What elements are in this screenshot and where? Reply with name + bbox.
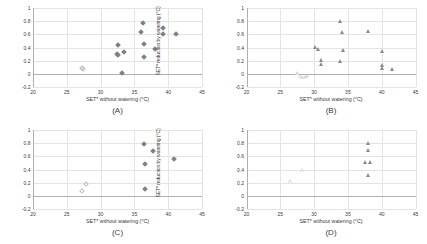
y-tick-label: 0.8	[237, 19, 244, 24]
data-point	[142, 186, 148, 192]
data-point	[316, 47, 320, 51]
y-tick-label: 0	[28, 71, 31, 76]
panel-b-plot-area: 202530354045-0.200.20.40.60.81	[247, 8, 416, 87]
x-tick-label: 45	[199, 212, 205, 217]
x-tick-label: 30	[98, 90, 104, 95]
y-tick-label: 0.4	[24, 167, 31, 172]
panel-d-x-axis-title: SET* without watering (°C)	[247, 218, 416, 225]
x-tick-label: 35	[132, 90, 138, 95]
panel-b-x-axis-title: SET* without watering (°C)	[247, 96, 416, 103]
x-tick-label: 40	[379, 212, 385, 217]
y-gridline	[33, 21, 202, 22]
x-tick-label: 45	[199, 90, 205, 95]
data-point	[366, 141, 370, 145]
data-point	[368, 160, 372, 164]
data-point	[141, 142, 147, 148]
y-axis-line	[33, 130, 34, 209]
panel-d-y-axis-title: SET* reduction by watering (°C)	[152, 124, 164, 202]
data-point	[380, 66, 384, 70]
data-point	[115, 52, 121, 58]
figure-grid: SET* reduction by watering (°C) 20253035…	[0, 0, 427, 244]
y-tick-label: 0.6	[24, 32, 31, 37]
y-tick-label: 0.6	[24, 154, 31, 159]
y-tick-label: 0	[28, 193, 31, 198]
y-tick-label: 0.2	[237, 180, 244, 185]
x-tick-label: 20	[30, 212, 36, 217]
x-gridline	[202, 8, 203, 87]
y-tick-label: 1	[241, 128, 244, 133]
y-gridline	[33, 209, 202, 210]
panel-b: SET* reduction by watering (°C) 20253035…	[214, 0, 427, 122]
data-point	[141, 41, 147, 47]
y-tick-label: 0	[241, 193, 244, 198]
panel-a: SET* reduction by watering (°C) 20253035…	[0, 0, 214, 122]
panel-a-x-axis-title: SET* without watering (°C)	[33, 96, 202, 103]
x-tick-label: 20	[244, 212, 250, 217]
data-point	[306, 74, 310, 78]
y-gridline	[33, 130, 202, 131]
x-axis-line	[247, 196, 416, 197]
data-point	[173, 31, 179, 37]
y-gridline	[247, 34, 416, 35]
x-gridline	[416, 8, 417, 87]
y-gridline	[33, 143, 202, 144]
panel-c: SET* reduction by watering (°C) 20253035…	[0, 122, 214, 244]
y-tick-label: 0	[241, 71, 244, 76]
y-axis-line	[247, 130, 248, 209]
data-point	[141, 54, 147, 60]
y-tick-label: 0.8	[24, 19, 31, 24]
panel-d: SET* reduction by watering (°C) 20253035…	[214, 122, 427, 244]
x-tick-label: 30	[311, 212, 317, 217]
y-tick-label: -0.2	[235, 85, 244, 90]
y-gridline	[247, 8, 416, 9]
y-tick-label: 0.2	[24, 58, 31, 63]
data-point	[366, 148, 370, 152]
x-tick-label: 30	[311, 90, 317, 95]
x-gridline	[416, 130, 417, 209]
y-tick-label: 1	[28, 6, 31, 11]
y-gridline	[247, 170, 416, 171]
panel-c-caption: (C)	[33, 228, 202, 238]
x-tick-label: 35	[132, 212, 138, 217]
y-tick-label: 0.2	[24, 180, 31, 185]
y-tick-label: 0.4	[237, 167, 244, 172]
x-tick-label: 40	[165, 90, 171, 95]
data-point	[142, 161, 148, 167]
y-axis-line	[33, 8, 34, 87]
y-gridline	[247, 61, 416, 62]
y-tick-label: -0.2	[235, 207, 244, 212]
y-gridline	[33, 87, 202, 88]
y-tick-label: 0.6	[237, 154, 244, 159]
y-gridline	[247, 143, 416, 144]
panel-d-caption: (D)	[247, 228, 416, 238]
x-tick-label: 25	[64, 90, 70, 95]
x-tick-label: 40	[165, 212, 171, 217]
x-tick-label: 20	[30, 90, 36, 95]
data-point	[380, 49, 384, 53]
x-gridline	[202, 130, 203, 209]
y-tick-label: 0.2	[237, 58, 244, 63]
y-gridline	[247, 21, 416, 22]
y-tick-label: 1	[28, 128, 31, 133]
x-tick-label: 45	[413, 212, 419, 217]
y-tick-label: -0.2	[22, 207, 31, 212]
data-point	[80, 66, 86, 72]
data-point	[288, 179, 292, 183]
x-tick-label: 25	[278, 212, 284, 217]
panel-b-y-axis-title: SET* reduction by watering (°C)	[152, 2, 164, 80]
x-tick-label: 35	[345, 212, 351, 217]
x-tick-label: 45	[413, 90, 419, 95]
data-point	[121, 49, 127, 55]
y-gridline	[33, 170, 202, 171]
x-axis-line	[33, 196, 202, 197]
panel-d-plot-area: 202530354045-0.200.20.40.60.81	[247, 130, 416, 209]
x-tick-label: 40	[379, 90, 385, 95]
y-gridline	[247, 87, 416, 88]
y-tick-label: 1	[241, 6, 244, 11]
x-tick-label: 35	[345, 90, 351, 95]
y-gridline	[247, 209, 416, 210]
data-point	[363, 160, 367, 164]
data-point	[341, 48, 345, 52]
data-point	[366, 173, 370, 177]
data-point	[366, 29, 370, 33]
